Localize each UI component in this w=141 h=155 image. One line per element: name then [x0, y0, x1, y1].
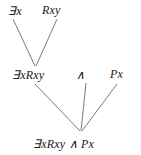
edge-exists-x-to-exists-rxy	[13, 19, 35, 66]
edge-exists-rxy-to-formula	[35, 84, 80, 131]
node-root-formula: ∃xRxy ∧ Px	[33, 137, 94, 151]
edge-px-to-formula	[82, 84, 117, 131]
syntax-tree-diagram: ∃x Rxy ∃xRxy ∧ Px ∃xRxy ∧ Px	[0, 0, 141, 155]
node-px: Px	[110, 67, 123, 81]
node-exists-x: ∃x	[8, 4, 22, 18]
edge-rxy-to-exists-rxy	[36, 19, 57, 66]
node-exists-rxy: ∃xRxy	[12, 68, 44, 82]
node-conjunction-operator: ∧	[76, 68, 85, 82]
edge-and-to-formula	[81, 83, 86, 131]
node-rxy: Rxy	[42, 3, 61, 17]
